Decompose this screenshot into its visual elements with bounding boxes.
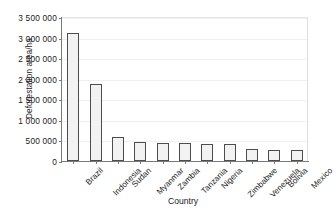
bar (201, 144, 213, 161)
y-tick-mark (59, 80, 62, 81)
gridline (62, 80, 307, 81)
y-tick-label: 2 000 000 (18, 75, 57, 85)
y-tick-label: 3 000 000 (18, 34, 57, 44)
x-tick-mark (207, 161, 208, 164)
x-tick-mark (140, 161, 141, 164)
y-tick-mark (59, 59, 62, 60)
x-tick-mark (163, 161, 164, 164)
bar (157, 143, 169, 162)
x-tick-mark (73, 161, 74, 164)
bar (90, 84, 102, 161)
bar (179, 143, 191, 162)
y-tick-label: 3 500 000 (18, 13, 57, 23)
bar (246, 149, 258, 161)
x-tick-mark (230, 161, 231, 164)
bar (67, 33, 79, 161)
y-tick-label: 500 000 (26, 136, 57, 146)
y-tick-mark (59, 121, 62, 122)
bar (268, 150, 280, 161)
x-tick-mark (185, 161, 186, 164)
bar (134, 142, 146, 161)
x-tick-mark (118, 161, 119, 164)
gridline (62, 59, 307, 60)
y-tick-label: 1 000 000 (18, 116, 57, 126)
x-tick-label: Brazil (84, 166, 105, 187)
y-tick-mark (59, 18, 62, 19)
x-axis-title: Country (0, 196, 326, 206)
y-tick-mark (59, 100, 62, 101)
gridline (62, 39, 307, 40)
bar (224, 144, 236, 161)
y-tick-mark (59, 162, 62, 163)
plot-area: 0500 0001 000 0001 500 0002 000 0002 500… (62, 17, 308, 161)
x-tick-mark (252, 161, 253, 164)
y-tick-label: 2 500 000 (18, 54, 57, 64)
y-tick-mark (59, 141, 62, 142)
x-tick-mark (274, 161, 275, 164)
y-tick-label: 1 500 000 (18, 95, 57, 105)
y-tick-label: 0 (52, 157, 57, 167)
bar (291, 150, 303, 161)
gridline (62, 18, 307, 19)
x-tick-mark (96, 161, 97, 164)
y-tick-mark (59, 39, 62, 40)
x-tick-mark (297, 161, 298, 164)
x-tick-label: Mexico (309, 166, 334, 191)
bar (112, 137, 124, 161)
